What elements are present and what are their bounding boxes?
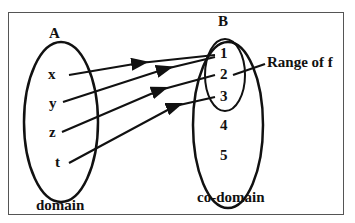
mapping-arrows: [62, 55, 265, 163]
element-y: y: [49, 96, 57, 111]
element-3: 3: [220, 89, 228, 104]
arrow-x-to-1: [69, 55, 215, 75]
domain-caption: domain: [36, 198, 84, 213]
element-4: 4: [220, 118, 228, 133]
element-t: t: [55, 155, 60, 170]
element-z: z: [49, 125, 56, 140]
element-5: 5: [220, 148, 228, 163]
set-b-label: B: [218, 14, 228, 29]
element-2: 2: [220, 67, 228, 82]
codomain-ellipse: [193, 42, 263, 208]
set-a-label: A: [49, 26, 60, 41]
element-x: x: [48, 67, 56, 82]
range-label: Range of f: [267, 55, 333, 70]
range-pointer-line: [233, 64, 265, 75]
element-1: 1: [220, 46, 228, 61]
codomain-caption: co-domain: [197, 190, 265, 205]
